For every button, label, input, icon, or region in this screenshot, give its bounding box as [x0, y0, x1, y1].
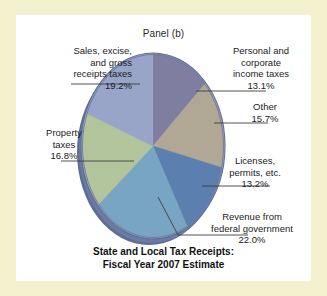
- callout-federal-revenue: Revenue from federal government 22.0%: [194, 211, 310, 246]
- pie-chart: Sales, excise, and gross receipts taxes …: [16, 15, 311, 281]
- callout-revenue-line2: federal government: [194, 223, 310, 235]
- callout-personal-line3: income taxes: [212, 68, 310, 80]
- chart-title-line1: State and Local Tax Receipts:: [16, 245, 311, 258]
- callout-licenses-line1: Licenses,: [206, 155, 304, 167]
- callout-other-percent: 15.7%: [226, 113, 304, 125]
- callout-other: Other 15.7%: [226, 101, 304, 124]
- callout-sales-line1: Sales, excise,: [14, 45, 132, 57]
- callout-other-line1: Other: [226, 101, 304, 113]
- callout-sales-excise: Sales, excise, and gross receipts taxes …: [14, 45, 132, 91]
- callout-revenue-line1: Revenue from: [194, 211, 310, 223]
- callout-property-taxes: Property taxes 16.8%: [22, 127, 106, 162]
- callout-revenue-percent: 22.0%: [194, 234, 310, 246]
- callout-sales-line3: receipts taxes: [14, 68, 132, 80]
- callout-personal-corporate: Personal and corporate income taxes 13.1…: [212, 45, 310, 91]
- figure-root: Panel (b): [0, 0, 327, 296]
- callout-property-line2: taxes: [22, 139, 106, 151]
- callout-property-percent: 16.8%: [22, 150, 106, 162]
- callout-personal-line1: Personal and: [212, 45, 310, 57]
- callout-sales-percent: 19.2%: [14, 80, 132, 92]
- callout-property-line1: Property: [22, 127, 106, 139]
- callout-licenses-permits: Licenses, permits, etc. 13.2%: [206, 155, 304, 190]
- chart-title: State and Local Tax Receipts: Fiscal Yea…: [16, 245, 311, 271]
- chart-title-line2: Fiscal Year 2007 Estimate: [16, 258, 311, 271]
- callout-licenses-percent: 13.2%: [206, 178, 304, 190]
- callout-personal-line2: corporate: [212, 57, 310, 69]
- callout-licenses-line2: permits, etc.: [206, 167, 304, 179]
- callout-personal-percent: 13.1%: [212, 80, 310, 92]
- callout-sales-line2: and gross: [14, 57, 132, 69]
- chart-panel: Panel (b): [16, 15, 311, 281]
